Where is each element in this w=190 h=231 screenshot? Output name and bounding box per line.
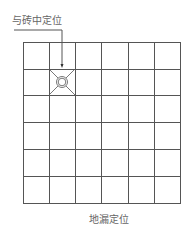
leader-arrowhead-icon [61, 64, 64, 68]
tile-grid-diagram [0, 0, 190, 231]
floor-drain-marker-icon [49, 69, 75, 95]
diagram-caption: 地漏定位 [89, 211, 129, 226]
tile-grid [23, 42, 180, 203]
leader-line [14, 30, 62, 66]
